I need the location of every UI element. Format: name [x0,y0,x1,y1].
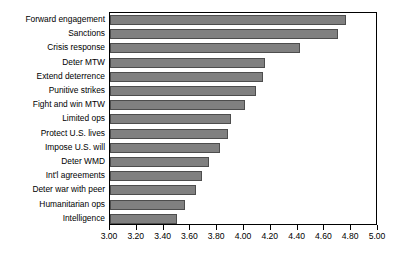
bar [110,100,245,110]
x-tick-mark [323,225,324,230]
bar [110,114,231,124]
bar-row [110,141,378,155]
bar [110,86,256,96]
x-tick-mark [216,225,217,230]
category-label: Sanctions [68,26,105,40]
bar-row [110,13,378,27]
category-label: Int'l agreements [46,168,105,182]
category-label: Limited ops [62,111,105,125]
bar-row [110,183,378,197]
x-tick-mark [270,225,271,230]
bar-row [110,198,378,212]
x-axis-tick-labels: 3.003.203.403.603.804.004.204.404.604.80… [0,231,401,247]
category-label: Deter WMD [61,154,105,168]
x-tick-mark [136,225,137,230]
bar [110,43,300,53]
category-label: Crisis response [47,40,105,54]
category-axis-labels: Forward engagementSanctionsCrisis respon… [0,12,107,225]
bar [110,214,177,224]
bar-row [110,169,378,183]
category-label: Intelligence [63,211,105,225]
bar [110,143,220,153]
bar-chart: Forward engagementSanctionsCrisis respon… [0,0,401,259]
category-label: Deter MTW [62,55,105,69]
bar-row [110,70,378,84]
x-tick-mark [297,225,298,230]
x-tick-mark [377,225,378,230]
bar [110,200,185,210]
bar [110,129,228,139]
x-tick-mark [350,225,351,230]
bar [110,15,346,25]
category-label: Humanitarian ops [39,197,105,211]
bar [110,58,265,68]
bar [110,72,263,82]
category-label: Protect U.S. lives [41,126,105,140]
x-tick-mark [243,225,244,230]
bar-row [110,84,378,98]
bar-row [110,98,378,112]
category-label: Deter war with peer [32,182,105,196]
category-label: Punitive strikes [49,83,105,97]
category-label: Impose U.S. will [45,140,105,154]
bar-row [110,27,378,41]
bar [110,171,202,181]
x-tick-mark [109,225,110,230]
bar-row [110,41,378,55]
bar [110,157,209,167]
bar-row [110,212,378,226]
category-label: Fight and win MTW [33,97,105,111]
bar-row [110,127,378,141]
bar-row [110,56,378,70]
category-label: Extend deterrence [37,69,105,83]
bar-row [110,155,378,169]
category-label: Forward engagement [25,12,105,26]
bar [110,29,338,39]
x-tick-label: 5.00 [357,231,397,241]
plot-area [109,12,377,225]
bar [110,185,196,195]
bar-row [110,112,378,126]
x-tick-mark [189,225,190,230]
x-tick-mark [163,225,164,230]
